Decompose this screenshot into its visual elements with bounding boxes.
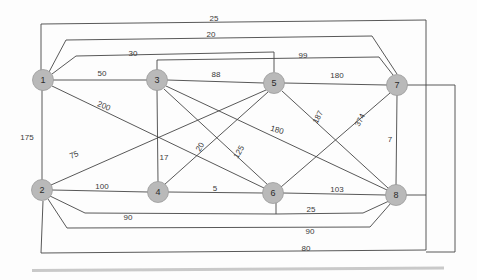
- graph-node-2[interactable]: 2: [32, 180, 53, 201]
- edge-weight-5-4: 20: [194, 140, 207, 153]
- edge-weight-5-8: 187: [311, 109, 325, 125]
- node-label-3: 3: [154, 75, 159, 85]
- edge-2-8-bottom: [41, 200, 426, 253]
- edge-3-8: [166, 86, 387, 190]
- graph-node-7[interactable]: 7: [387, 75, 408, 96]
- graph-node-8[interactable]: 8: [386, 185, 407, 206]
- edge-weight-4-6: 5: [213, 184, 218, 193]
- edge-3-5: [167, 80, 264, 83]
- edge-weight-3-7-upper: 99: [299, 51, 308, 60]
- node-label-6: 6: [270, 188, 275, 198]
- edge-5-8: [282, 91, 388, 188]
- edge-weight-1-7-upper: 20: [207, 30, 216, 39]
- graph-node-1[interactable]: 1: [33, 70, 54, 91]
- nodes-layer: 1 2 3 4 5 6 7: [32, 70, 408, 206]
- edge-weight-2-4-lower: 90: [124, 213, 133, 222]
- graph-figure: 1 2 3 4 5 6 7: [0, 0, 477, 280]
- edge-weight-2-4: 100: [95, 182, 109, 191]
- node-label-7: 7: [394, 80, 399, 90]
- node-label-4: 4: [155, 187, 160, 197]
- edge-weight-1-6: 200: [96, 99, 112, 113]
- edge-7-right-stub: [407, 85, 455, 252]
- edge-weight-5-7: 180: [330, 71, 344, 80]
- node-label-2: 2: [39, 185, 44, 195]
- edge-weight-2-8-lower: 90: [306, 227, 315, 236]
- edge-weight-6-8-lower: 25: [307, 205, 316, 214]
- node-label-8: 8: [393, 190, 398, 200]
- edge-1-5-upper: [52, 52, 274, 74]
- edge-weight-1-3: 50: [98, 69, 107, 78]
- edge-weight-3-6: 125: [232, 143, 247, 160]
- graph-node-5[interactable]: 5: [264, 73, 285, 94]
- edge-weight-3-5: 88: [212, 70, 221, 79]
- node-label-5: 5: [271, 78, 276, 88]
- edge-weight-3-8: 180: [269, 124, 285, 136]
- edge-6-8-lower: [276, 201, 389, 214]
- edge-7-6: [281, 93, 390, 187]
- edge-weight-7-8: 7: [388, 135, 393, 144]
- edge-weight-1-2: 175: [20, 133, 34, 142]
- node-label-1: 1: [40, 75, 45, 85]
- edge-weights-layer: 25 20 30 99 50 88 180 200 175 187 374 18…: [20, 14, 392, 253]
- edge-weight-2-8-bottom: 80: [302, 244, 311, 253]
- edge-weight-3-4: 17: [160, 153, 169, 162]
- edge-3-4: [157, 90, 158, 182]
- edges-layer: [41, 20, 455, 253]
- graph-canvas: 1 2 3 4 5 6 7: [0, 0, 477, 280]
- graph-node-4[interactable]: 4: [148, 182, 169, 203]
- edge-weight-6-8: 103: [330, 185, 344, 194]
- edge-weight-2-5: 75: [68, 149, 80, 161]
- edge-7-8: [396, 95, 397, 185]
- graph-node-6[interactable]: 6: [263, 183, 284, 204]
- edge-weight-1-5-upper: 30: [129, 49, 138, 58]
- graph-node-3[interactable]: 3: [147, 70, 168, 91]
- edge-2-5: [51, 90, 266, 185]
- edge-5-7: [284, 83, 387, 85]
- edge-weight-1-7-outer-top: 25: [210, 14, 219, 23]
